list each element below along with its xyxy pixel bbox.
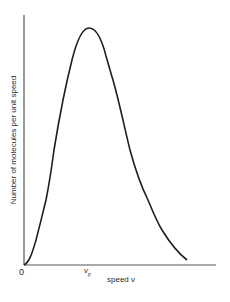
x-axis-label: speed v xyxy=(107,275,135,284)
y-axis-label: Number of molecules per unit speed xyxy=(9,76,18,205)
most-probable-speed-label: vp xyxy=(84,266,91,277)
distribution-curve xyxy=(24,28,187,265)
chart-canvas xyxy=(0,0,230,302)
vp-subscript: p xyxy=(88,271,91,277)
origin-label: 0 xyxy=(19,267,24,277)
